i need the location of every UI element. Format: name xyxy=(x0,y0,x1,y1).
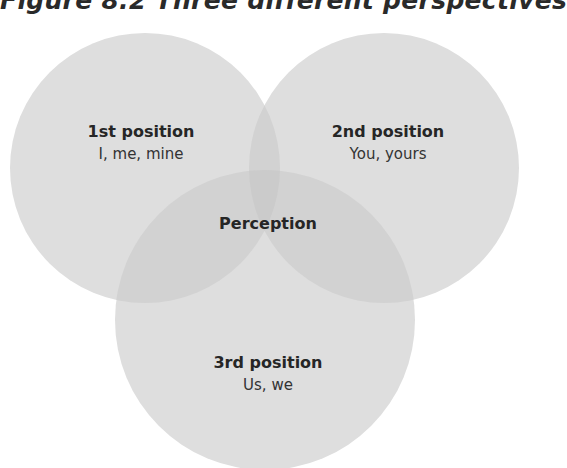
label-second-position: 2nd position You, yours xyxy=(288,121,488,165)
first-position-subtext: I, me, mine xyxy=(41,143,241,165)
third-position-subtext: Us, we xyxy=(168,374,368,396)
label-center: Perception xyxy=(168,213,368,235)
third-position-heading: 3rd position xyxy=(168,352,368,374)
second-position-subtext: You, yours xyxy=(288,143,488,165)
label-third-position: 3rd position Us, we xyxy=(168,352,368,396)
label-first-position: 1st position I, me, mine xyxy=(41,121,241,165)
second-position-heading: 2nd position xyxy=(288,121,488,143)
center-label: Perception xyxy=(168,213,368,235)
first-position-heading: 1st position xyxy=(41,121,241,143)
